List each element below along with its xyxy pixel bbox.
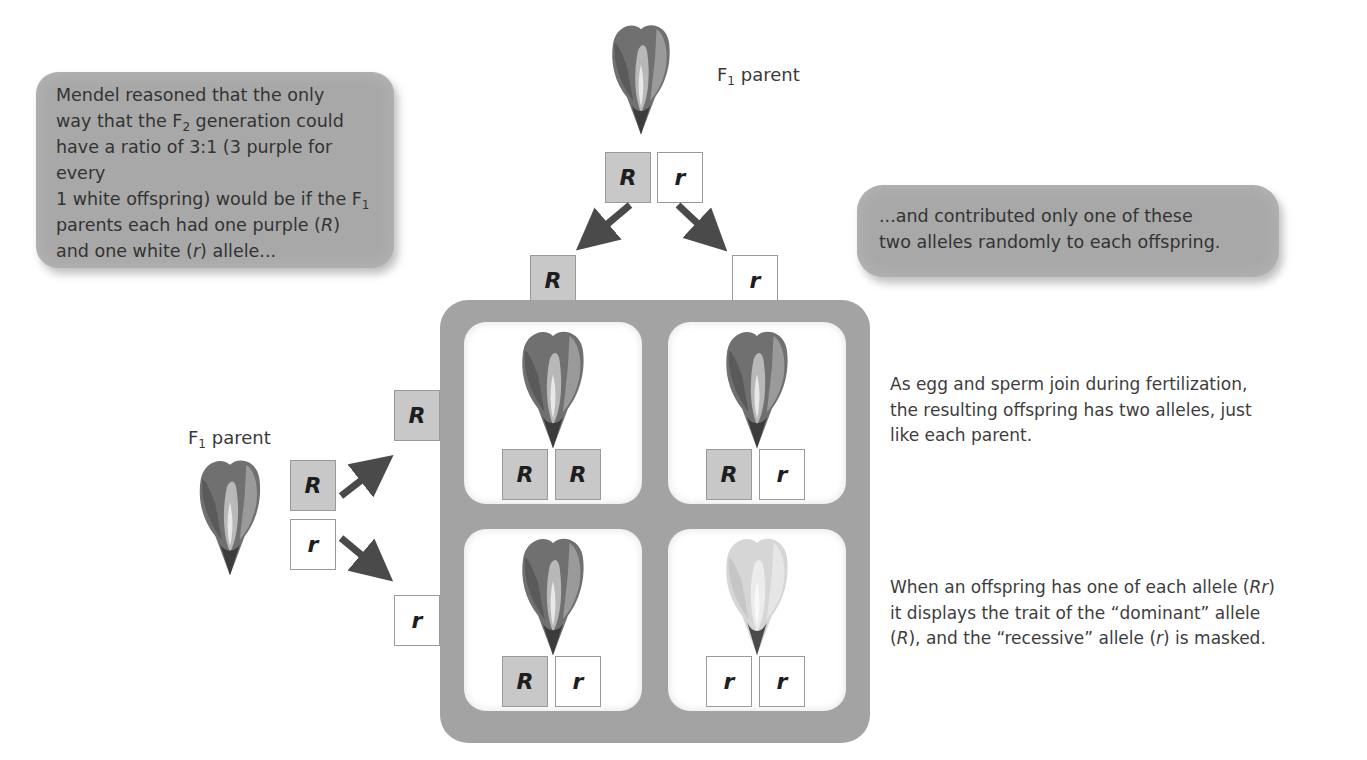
callout-line: have a ratio of 3:1 (3 purple for every bbox=[56, 134, 380, 186]
callout-line: 1 white offspring) would be if the F1 bbox=[56, 186, 380, 212]
cell-allele: R bbox=[706, 449, 752, 500]
cell-allele: R bbox=[502, 449, 548, 500]
callout-mendel-reasoning: Mendel reasoned that the only way that t… bbox=[36, 72, 394, 268]
annotation-line: When an offspring has one of each allele… bbox=[890, 575, 1275, 601]
top-gamete-R: R bbox=[530, 255, 576, 306]
white-flower-icon bbox=[714, 533, 800, 657]
fertilization-annotation: As egg and sperm join during fertilizati… bbox=[890, 372, 1252, 449]
cell-allele: r bbox=[759, 449, 805, 500]
cell-allele: r bbox=[759, 656, 805, 707]
left-gamete-R: R bbox=[394, 390, 440, 441]
arrow-down-right-icon bbox=[678, 205, 712, 237]
purple-flower-icon bbox=[510, 326, 596, 450]
left-gamete-r: r bbox=[394, 595, 440, 646]
punnett-square: R R R r R r r r bbox=[440, 300, 870, 743]
callout-line: two alleles randomly to each offspring. bbox=[879, 229, 1265, 255]
punnett-cell-RR: R R bbox=[464, 322, 642, 504]
arrows-top bbox=[540, 195, 760, 255]
top-parent-label: F1 parent bbox=[717, 64, 800, 85]
callout-line: and one white (r) allele... bbox=[56, 238, 380, 264]
callout-line: ...and contributed only one of these bbox=[879, 203, 1265, 229]
annotation-line: As egg and sperm join during fertilizati… bbox=[890, 372, 1252, 398]
cell-allele: R bbox=[502, 656, 548, 707]
cell-allele: r bbox=[555, 656, 601, 707]
callout-line: way that the F2 generation could bbox=[56, 108, 380, 134]
left-parent-label: F1 parent bbox=[188, 427, 271, 448]
arrow-down-left-icon bbox=[592, 205, 630, 237]
annotation-line: (R), and the “recessive” allele (r) is m… bbox=[890, 626, 1275, 652]
punnett-cell-rr: r r bbox=[668, 529, 846, 711]
dominance-annotation: When an offspring has one of each allele… bbox=[890, 575, 1275, 652]
arrow-up-right-icon bbox=[341, 468, 377, 496]
purple-flower-icon bbox=[510, 533, 596, 657]
left-parent-allele-R: R bbox=[290, 460, 336, 511]
callout-random-contribution: ...and contributed only one of these two… bbox=[857, 185, 1279, 277]
purple-flower-icon bbox=[610, 5, 672, 151]
left-parent-allele-r: r bbox=[290, 519, 336, 570]
annotation-line: the resulting offspring has two alleles,… bbox=[890, 398, 1252, 424]
cell-allele: r bbox=[706, 656, 752, 707]
annotation-line: it displays the trait of the “dominant” … bbox=[890, 601, 1275, 627]
purple-flower-icon bbox=[714, 326, 800, 450]
punnett-cell-Rr-bottom: R r bbox=[464, 529, 642, 711]
arrows-left bbox=[335, 440, 415, 600]
callout-line: parents each had one purple (R) bbox=[56, 212, 380, 238]
annotation-line: like each parent. bbox=[890, 423, 1252, 449]
callout-line: Mendel reasoned that the only bbox=[56, 82, 380, 108]
cell-allele: R bbox=[555, 449, 601, 500]
top-gamete-r: r bbox=[732, 255, 778, 306]
arrow-down-right-icon bbox=[341, 538, 377, 568]
punnett-cell-Rr-top: R r bbox=[668, 322, 846, 504]
purple-flower-icon bbox=[187, 455, 273, 577]
